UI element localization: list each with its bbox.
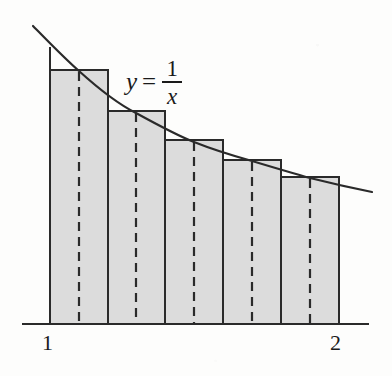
rectangle-2 (108, 111, 165, 324)
fraction-numerator: 1 (163, 57, 181, 81)
midpoint-rule-figure (0, 0, 392, 376)
x-axis-label-right: 2 (330, 332, 341, 354)
equation-equals-sign: = (142, 69, 162, 94)
figure-container: y = 1 x 1 2 (0, 0, 392, 376)
equation-variable-y: y (126, 69, 142, 94)
equation-fraction: 1 x (162, 57, 182, 108)
x-axis-label-left: 1 (42, 332, 53, 354)
fraction-denominator: x (164, 83, 180, 108)
curve-equation-label: y = 1 x (126, 56, 182, 107)
